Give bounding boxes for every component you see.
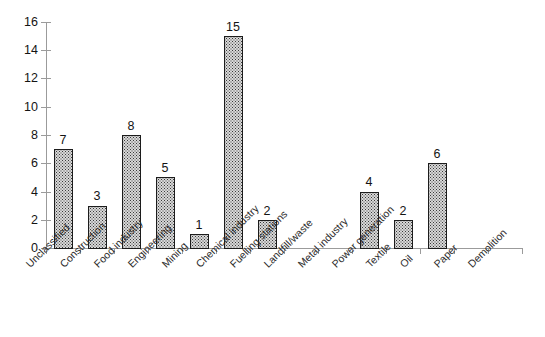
y-tick-2 — [41, 220, 51, 221]
y-tick-4 — [41, 192, 51, 193]
y-tick-14 — [41, 50, 51, 51]
bar-value-power-generation: 4 — [349, 176, 389, 189]
y-tick-10 — [41, 107, 51, 108]
bar-textile — [394, 220, 413, 249]
y-tick-label-10: 10 — [4, 101, 38, 114]
bar-value-mining: 1 — [179, 219, 219, 232]
y-tick-label-6: 6 — [4, 157, 38, 170]
x-tick-11 — [420, 248, 421, 254]
bar-value-engineering: 5 — [145, 162, 185, 175]
y-tick-label-2: 2 — [4, 214, 38, 227]
bar-mining — [190, 234, 209, 249]
cat-label-oil: Oil — [398, 253, 415, 270]
bar-chart: 16 14 12 10 8 6 4 2 0 — [0, 0, 545, 337]
y-tick-16 — [41, 22, 51, 23]
y-tick-label-14: 14 — [4, 44, 38, 57]
y-tick-6 — [41, 163, 51, 164]
bar-value-food-industry: 8 — [111, 120, 151, 133]
bar-value-construction: 3 — [77, 190, 117, 203]
bar-value-oil: 6 — [417, 148, 457, 161]
y-tick-label-16: 16 — [4, 16, 38, 29]
x-tick-14 — [522, 248, 523, 254]
bar-value-unclassified: 7 — [43, 134, 83, 147]
bar-value-chemical-industry: 15 — [213, 21, 253, 34]
plot-area: 16 14 12 10 8 6 4 2 0 — [0, 0, 545, 337]
y-tick-12 — [41, 78, 51, 79]
bar-oil — [428, 163, 447, 249]
y-tick-label-4: 4 — [4, 186, 38, 199]
y-tick-label-12: 12 — [4, 72, 38, 85]
y-tick-label-8: 8 — [4, 129, 38, 142]
